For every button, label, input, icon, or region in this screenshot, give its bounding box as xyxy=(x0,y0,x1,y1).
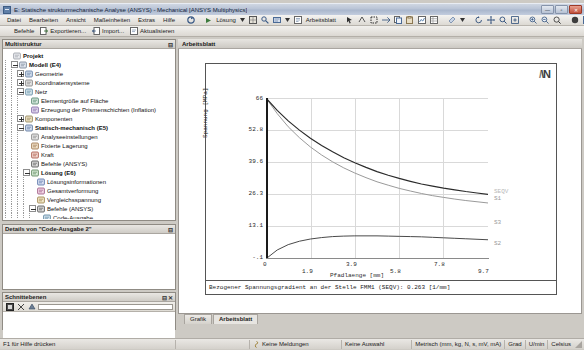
table-view-icon[interactable] xyxy=(429,16,439,25)
menu-masseinheiten[interactable]: Maßeinheiten xyxy=(90,17,134,23)
rotate-icon[interactable] xyxy=(474,16,484,25)
tab-arbeitsblatt[interactable]: Arbeitsblatt xyxy=(180,40,219,48)
status-units[interactable]: Metrisch (mm, kg, N, s, mV, mA) xyxy=(412,340,505,349)
tree-expander-icon[interactable] xyxy=(17,79,24,86)
tree-item-8[interactable]: Statisch-mechanisch (E5) xyxy=(5,123,175,132)
window-title: E: Statische strukturmechanische Analyse… xyxy=(14,7,247,13)
menu-hilfe[interactable]: Hilfe xyxy=(159,17,179,23)
window-controls[interactable]: — ▫ ✕ xyxy=(541,5,582,14)
legend-item-s3: S3 xyxy=(494,219,501,226)
tree-item-10[interactable]: Fixierte Lagerung xyxy=(5,141,175,150)
worksheet-dropdown-icon[interactable] xyxy=(284,16,291,25)
tree-item-9[interactable]: Analyseeinstellungen xyxy=(5,132,175,141)
tree-item-2[interactable]: Geometrie xyxy=(5,69,175,78)
tab-arbeitsblatt-bottom[interactable]: Arbeitsblatt xyxy=(213,314,258,324)
tree-item-13[interactable]: Lösung (E6) xyxy=(5,168,175,177)
status-rotation[interactable]: U/min xyxy=(526,340,549,349)
pin-icon[interactable]: ⊟ xyxy=(167,226,173,233)
toolbar-refresh-item[interactable]: Aktualisieren xyxy=(130,27,174,35)
tree-expander-icon[interactable] xyxy=(17,115,24,122)
pin-icon[interactable]: ⊟ xyxy=(167,41,173,48)
pan-icon[interactable] xyxy=(486,16,496,25)
model-icon xyxy=(19,61,27,69)
menu-datei[interactable]: Datei xyxy=(3,17,25,23)
tree-item-12[interactable]: Befehle (ANSYS) xyxy=(5,159,175,168)
tree-item-18[interactable]: Code-Ausgabe xyxy=(5,213,175,219)
zoom-fit-icon[interactable] xyxy=(510,16,520,25)
resize-grip-icon[interactable] xyxy=(574,340,582,348)
delete-section-plane-icon[interactable] xyxy=(16,303,25,311)
minimize-button[interactable]: — xyxy=(541,5,554,14)
details-panel-body[interactable] xyxy=(3,234,175,289)
tree-item-5[interactable]: Elementgröße auf Fläche xyxy=(5,96,175,105)
show-whole-elements-icon[interactable] xyxy=(27,303,36,311)
graph-view-icon[interactable] xyxy=(417,16,427,25)
new-section-plane-icon[interactable] xyxy=(5,303,14,311)
toolbar-export-item[interactable]: Exportieren... xyxy=(40,27,86,35)
chart-frame[interactable]: /\N 66 52.8 39.6 26.3 13.1 -.1 Spannung … xyxy=(205,63,557,295)
select-mode-icon[interactable] xyxy=(357,16,367,25)
paint-icon[interactable] xyxy=(447,16,457,25)
probe-icon[interactable] xyxy=(260,16,270,25)
chevron-down-icon[interactable] xyxy=(239,16,246,25)
tree-item-3[interactable]: Koordinatensysteme xyxy=(5,78,175,87)
tree-item-11[interactable]: Kraft xyxy=(5,150,175,159)
tree-item-4[interactable]: Netz xyxy=(5,87,175,96)
section-planes-field[interactable] xyxy=(38,304,173,310)
close-icon[interactable]: ✕ xyxy=(167,294,173,301)
status-temperature[interactable]: Celsius xyxy=(548,340,574,349)
toolbar-import-item[interactable]: Import... xyxy=(92,27,124,35)
tree-item-15[interactable]: Gesamtverformung xyxy=(5,186,175,195)
magnifier-icon[interactable] xyxy=(552,16,562,25)
named-selection-icon[interactable] xyxy=(272,16,282,25)
zoom-in-icon[interactable] xyxy=(528,16,538,25)
refresh-icon[interactable] xyxy=(186,16,196,25)
tree-expander-icon[interactable] xyxy=(23,169,30,176)
menu-ansicht[interactable]: Ansicht xyxy=(62,17,90,23)
shaded-icon[interactable] xyxy=(570,16,580,25)
worksheet-canvas[interactable]: /\N 66 52.8 39.6 26.3 13.1 -.1 Spannung … xyxy=(178,49,582,314)
solve-label[interactable]: Lösung xyxy=(214,17,238,23)
status-angle[interactable]: Grad xyxy=(505,340,525,349)
close-button[interactable]: ✕ xyxy=(569,5,582,14)
worksheet-label[interactable]: Arbeitsblatt xyxy=(304,17,338,23)
maximize-button[interactable]: ▫ xyxy=(555,5,568,14)
mesh-icon[interactable] xyxy=(248,16,258,25)
extend-icon[interactable] xyxy=(381,16,391,25)
tree-expander-icon[interactable] xyxy=(17,70,24,77)
document-tab-row[interactable]: Arbeitsblatt xyxy=(178,39,582,49)
zoom-box-icon[interactable] xyxy=(498,16,508,25)
menu-bearbeiten[interactable]: Bearbeiten xyxy=(25,17,62,23)
menu-bar[interactable]: Datei Bearbeiten Ansicht Maßeinheiten Ex… xyxy=(0,15,584,26)
zoom-out-icon[interactable] xyxy=(540,16,550,25)
tree-item-label: Befehle (ANSYS) xyxy=(47,206,93,212)
tree-expander-icon[interactable] xyxy=(17,124,24,131)
tree-item-14[interactable]: Lösungsinformationen xyxy=(5,177,175,186)
cursor-icon[interactable] xyxy=(345,16,355,25)
tree-item-0[interactable]: Projekt xyxy=(5,51,175,60)
paste-icon[interactable] xyxy=(405,16,415,25)
tree-item-1[interactable]: Modell (E4) xyxy=(5,60,175,69)
outline-tree[interactable]: ProjektModell (E4)GeometrieKoordinatensy… xyxy=(3,49,175,219)
tree-expander-icon[interactable] xyxy=(29,205,36,212)
box-select-icon[interactable] xyxy=(369,16,379,25)
tree-item-17[interactable]: Befehle (ANSYS) xyxy=(5,204,175,213)
solve-icon[interactable] xyxy=(204,16,213,25)
bottom-tab-bar[interactable]: Grafik Arbeitsblatt xyxy=(178,314,582,325)
section-planes-body[interactable] xyxy=(3,312,175,338)
tree-expander-icon[interactable] xyxy=(11,61,18,68)
toolbar-commands-item[interactable]: Befehle xyxy=(4,27,34,35)
status-messages[interactable]: Keine Meldungen xyxy=(250,340,342,349)
chevron-down-icon[interactable] xyxy=(459,16,466,25)
tree-item-6[interactable]: Erzeugung der Prismenschichten (Inflatio… xyxy=(5,105,175,114)
context-toolbar[interactable]: Befehle Exportieren... Import... Aktuali… xyxy=(0,26,584,37)
plot-area[interactable] xyxy=(266,98,488,258)
section-planes-toolbar[interactable] xyxy=(3,302,175,312)
menu-extras[interactable]: Extras xyxy=(134,17,159,23)
tab-grafik[interactable]: Grafik xyxy=(184,314,212,324)
worksheet-icon[interactable] xyxy=(293,16,303,25)
tree-item-7[interactable]: Komponenten xyxy=(5,114,175,123)
copy-icon[interactable] xyxy=(393,16,403,25)
tree-item-16[interactable]: Vergleichsspannung xyxy=(5,195,175,204)
tree-expander-icon[interactable] xyxy=(17,88,24,95)
